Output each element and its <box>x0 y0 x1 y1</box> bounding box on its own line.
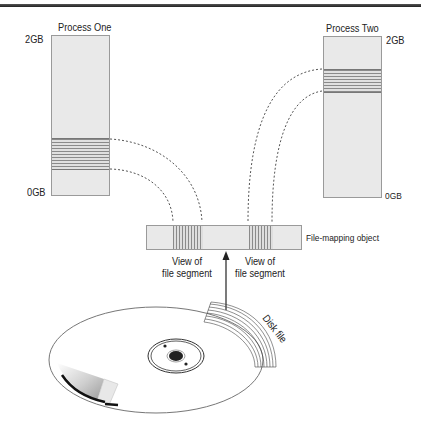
diagram-graphics <box>0 0 421 436</box>
arrow-up-icon <box>223 251 230 310</box>
connector-p1-top <box>110 139 202 222</box>
connector-p1-bottom <box>110 169 173 222</box>
connector-p2-top <box>248 69 322 222</box>
disk-icon <box>49 302 276 413</box>
connector-p2-bottom <box>272 91 322 222</box>
connector-lines <box>110 69 322 222</box>
